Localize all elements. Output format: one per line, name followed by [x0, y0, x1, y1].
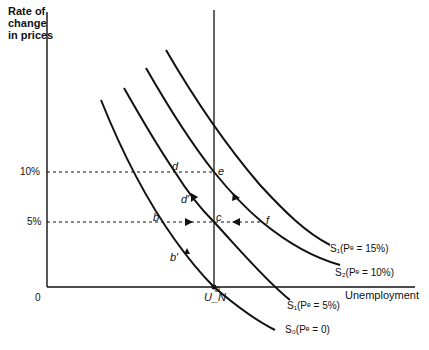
x-axis-label: Unemployment	[345, 289, 419, 301]
arrow-icon	[184, 248, 190, 254]
point-b: b	[153, 211, 159, 223]
curve-s3-label: S₁(Pᵉ = 15%)	[330, 243, 389, 254]
y-axis-label: Rate of change in prices	[8, 5, 53, 41]
point-c: c	[216, 211, 222, 223]
point-f: f	[266, 214, 269, 226]
curve-s3	[166, 50, 330, 245]
point-e: e	[218, 165, 224, 177]
point-d-prime: d′	[181, 193, 189, 205]
curve-s1-label: S₁(Pᵉ = 5%)	[287, 300, 340, 311]
curve-s0-label: S₀(Pᵉ = 0)	[285, 324, 330, 335]
point-b-prime: b′	[170, 251, 178, 263]
point-a: a	[215, 284, 220, 294]
arrow-icon	[232, 218, 240, 226]
origin-label: 0	[35, 292, 41, 303]
arrow-icon	[185, 218, 193, 226]
curve-s2-label: S₂(Pᵉ = 10%)	[335, 267, 394, 278]
tick-5-percent: 5%	[27, 216, 41, 227]
point-d: d	[172, 160, 178, 172]
tick-10-percent: 10%	[20, 166, 40, 177]
curve-s1	[124, 88, 290, 300]
